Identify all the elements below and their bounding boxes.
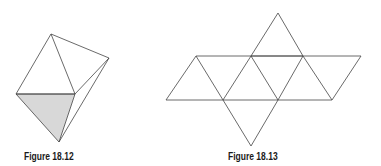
figure-caption-18-13: Figure 18.13 (228, 151, 278, 162)
edge (75, 58, 109, 94)
octahedron-net-figure (166, 13, 361, 146)
net-edge (166, 56, 196, 100)
net-triangle (223, 100, 278, 146)
edge (51, 34, 75, 94)
net-triangle (251, 13, 303, 56)
figure-caption-18-12: Figure 18.12 (24, 151, 74, 162)
edge (16, 34, 51, 94)
net-edge (223, 56, 251, 100)
net-edge (196, 56, 223, 100)
net-edge (251, 56, 278, 100)
shaded-face (16, 94, 75, 142)
net-edge (332, 56, 361, 100)
net-edge (278, 56, 303, 100)
edge (51, 34, 109, 58)
net-edge (303, 56, 332, 100)
figures-canvas (0, 0, 381, 166)
octahedron-figure (16, 34, 109, 142)
